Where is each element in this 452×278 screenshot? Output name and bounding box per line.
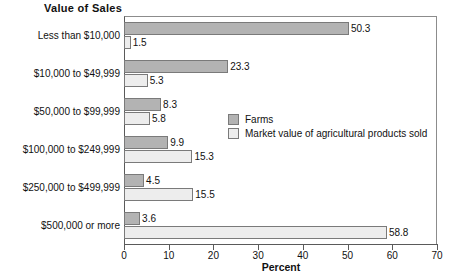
x-tick-label: 30 xyxy=(253,250,264,261)
bar-market-value xyxy=(124,36,131,49)
x-tick-label: 70 xyxy=(431,250,442,261)
bar-farms xyxy=(124,22,349,35)
bar-market-value xyxy=(124,150,192,163)
bar-farms xyxy=(124,174,144,187)
x-tick-label: 60 xyxy=(387,250,398,261)
bar-market-value xyxy=(124,188,193,201)
x-axis-line xyxy=(124,244,438,245)
bar-market-value xyxy=(124,226,387,239)
bar-farms xyxy=(124,136,168,149)
bar-value-label: 8.3 xyxy=(163,99,177,110)
x-tick-label: 20 xyxy=(208,250,219,261)
category-label: Less than $10,000 xyxy=(2,30,120,41)
bar-farms xyxy=(124,98,161,111)
bar-value-label: 1.5 xyxy=(133,37,147,48)
legend-label-market-value: Market value of agricultural products so… xyxy=(245,128,427,139)
bar-market-value xyxy=(124,74,148,87)
bar-value-label: 5.8 xyxy=(152,113,166,124)
bar-value-label: 50.3 xyxy=(351,23,370,34)
category-label: $50,000 to $99,999 xyxy=(2,106,120,117)
bar-farms xyxy=(124,212,140,225)
x-axis-title: Percent xyxy=(124,261,438,273)
legend-swatch-market-value xyxy=(228,128,239,139)
bar-market-value xyxy=(124,112,150,125)
legend-item-market-value: Market value of agricultural products so… xyxy=(228,128,427,139)
bar-value-label: 3.6 xyxy=(142,213,156,224)
category-label: $500,000 or more xyxy=(2,220,120,231)
x-tick-label: 10 xyxy=(163,250,174,261)
bar-value-label: 23.3 xyxy=(230,61,249,72)
legend-item-farms: Farms xyxy=(228,114,427,125)
legend-label-farms: Farms xyxy=(245,114,273,125)
legend-swatch-farms xyxy=(228,114,239,125)
bar-value-label: 4.5 xyxy=(146,175,160,186)
legend: Farms Market value of agricultural produ… xyxy=(228,114,427,142)
bar-value-label: 15.5 xyxy=(195,189,214,200)
bar-value-label: 9.9 xyxy=(170,137,184,148)
category-label: $10,000 to $49,999 xyxy=(2,68,120,79)
x-tick-label: 50 xyxy=(342,250,353,261)
category-axis: Less than $10,000$10,000 to $49,999$50,0… xyxy=(0,0,120,278)
category-label: $100,000 to $249,999 xyxy=(2,144,120,155)
bar-value-label: 15.3 xyxy=(194,151,213,162)
bar-value-label: 5.3 xyxy=(150,75,164,86)
category-label: $250,000 to $499,999 xyxy=(2,182,120,193)
bar-value-label: 58.8 xyxy=(389,227,408,238)
chart-container: Value of Sales Less than $10,000$10,000 … xyxy=(0,0,452,278)
x-tick-label: 40 xyxy=(297,250,308,261)
bar-farms xyxy=(124,60,228,73)
x-tick-label: 0 xyxy=(121,250,127,261)
